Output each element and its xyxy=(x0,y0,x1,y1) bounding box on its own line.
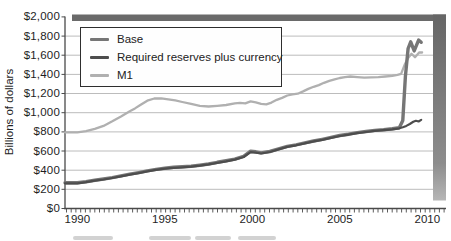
y-axis-title: Billions of dollars xyxy=(3,69,15,155)
y-tick-label-200: $200 xyxy=(0,183,60,196)
y-tick-label-1600: $1,600 xyxy=(0,49,60,62)
legend-item-required-reserves-plus-currency: Required reserves plus currency xyxy=(90,48,281,66)
x-tick-label-2010: 2010 xyxy=(404,213,450,225)
y-tick-label-2000: $2,000 xyxy=(0,10,60,23)
y-tick-label-400: $400 xyxy=(0,164,60,177)
base-line-swatch-icon xyxy=(90,38,109,41)
legend-label-required-reserves: Required reserves plus currency xyxy=(117,51,283,63)
x-tick-label-2005: 2005 xyxy=(317,213,363,225)
plot-shadow-right xyxy=(433,15,446,201)
chart-legend: Base Required reserves plus currency M1 xyxy=(80,27,282,87)
x-tick-label-1995: 1995 xyxy=(142,213,188,225)
legend-label-base: Base xyxy=(117,33,143,45)
plot-shadow-top xyxy=(72,15,446,22)
x-tick-label-2000: 2000 xyxy=(229,213,275,225)
legend-item-m1: M1 xyxy=(90,66,281,84)
y-tick-label-1800: $1,800 xyxy=(0,30,60,43)
m1-line-swatch-icon xyxy=(90,74,109,77)
x-tick-label-1990: 1990 xyxy=(54,213,100,225)
series-line-required-reserves-plus-currency xyxy=(65,120,421,183)
y-tick-label-0: $0 xyxy=(0,202,60,215)
required-reserves-line-swatch-icon xyxy=(90,56,109,59)
legend-label-m1: M1 xyxy=(117,69,133,81)
legend-item-base: Base xyxy=(90,30,281,48)
money-aggregates-chart: $0$200$400$600$800$1,000$1,200$1,400$1,6… xyxy=(0,0,451,241)
